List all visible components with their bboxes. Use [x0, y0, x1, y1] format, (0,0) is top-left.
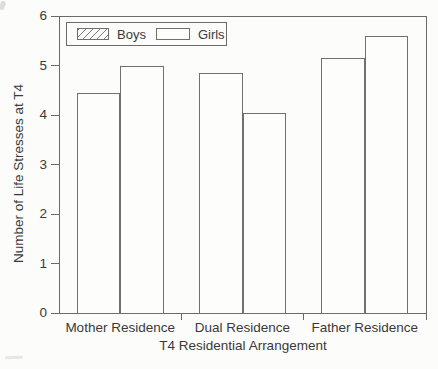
x-tick-mark: [426, 313, 427, 320]
scan-artifact: [0, 0, 6, 10]
bar-boys-father: [321, 58, 365, 314]
bar-girls-mother: [120, 66, 164, 315]
y-tick-mark: [51, 263, 59, 264]
y-tick-mark: [51, 313, 59, 314]
x-tick-label: Father Residence: [304, 320, 426, 336]
legend-label-girls: Girls: [198, 27, 225, 42]
y-tick-mark: [51, 65, 59, 66]
y-tick-mark: [51, 115, 59, 116]
bar-chart-figure: Number of Life Stresses at T4 Boys Girls…: [0, 0, 438, 369]
legend: Boys Girls: [66, 22, 227, 46]
x-tick-label: Mother Residence: [59, 320, 181, 336]
x-tick-label: Dual Residence: [181, 320, 303, 336]
y-tick-label: 6: [17, 7, 47, 25]
bar-boys-mother: [77, 93, 121, 314]
y-tick-label: 5: [17, 57, 47, 75]
legend-swatch-boys-hatched: [77, 28, 109, 40]
scan-artifact: [5, 356, 23, 360]
x-axis-title: T4 Residential Arrangement: [59, 338, 427, 353]
y-tick-label: 3: [17, 156, 47, 174]
y-tick-label: 2: [17, 205, 47, 223]
x-tick-mark: [181, 313, 182, 320]
x-tick-mark: [303, 313, 304, 320]
bar-girls-dual: [243, 113, 287, 314]
y-tick-label: 1: [17, 255, 47, 273]
y-tick-label: 0: [17, 304, 47, 322]
bar-girls-father: [365, 36, 409, 314]
bar-boys-dual: [199, 73, 243, 314]
y-tick-mark: [51, 16, 59, 17]
y-tick-label: 4: [17, 106, 47, 124]
y-tick-mark: [51, 164, 59, 165]
y-tick-mark: [51, 214, 59, 215]
legend-label-boys: Boys: [117, 27, 146, 42]
legend-swatch-girls-open: [156, 28, 190, 40]
